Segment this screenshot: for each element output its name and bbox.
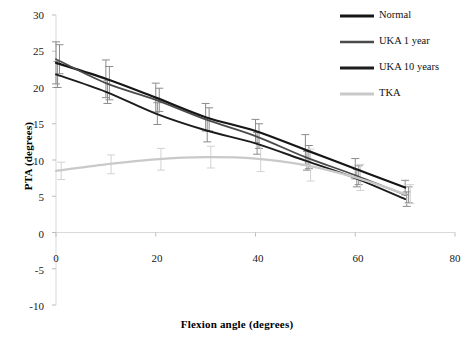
legend-label-normal: Normal	[379, 9, 411, 20]
data-series-layer	[56, 59, 405, 199]
chart-figure: 30 25 20 15 10 5 0 -5 -10 0 20 40 60 80 …	[0, 0, 474, 341]
x-tick-20: 20	[140, 252, 174, 264]
y-tick-25: 25	[10, 45, 44, 57]
x-tick-40: 40	[241, 252, 275, 264]
y-tick--5: -5	[10, 264, 44, 276]
legend-swatch-normal	[340, 9, 374, 20]
legend-item-normal[interactable]: Normal	[340, 9, 411, 20]
legend-label-uka-10-years: UKA 10 years	[379, 61, 439, 72]
legend-label-uka-1-year: UKA 1 year	[379, 35, 430, 46]
y-tick--10: -10	[10, 300, 44, 312]
legend-swatch-uka-10-years	[340, 61, 374, 72]
legend-label-tka: TKA	[379, 87, 401, 98]
legend-item-uka-1-year[interactable]: UKA 1 year	[340, 35, 430, 46]
series-line-tka	[56, 157, 405, 194]
x-tick-0: 0	[39, 252, 73, 264]
series-line-normal	[56, 63, 405, 188]
legend-item-tka[interactable]: TKA	[340, 87, 401, 98]
x-tick-60: 60	[341, 252, 375, 264]
x-tick-80: 80	[438, 252, 472, 264]
line-chart-plot	[0, 0, 474, 341]
legend-item-uka-10-years[interactable]: UKA 10 years	[340, 61, 439, 72]
error-bars-tka	[57, 146, 414, 204]
legend-swatch-tka	[340, 87, 374, 98]
x-axis-title: Flexion angle (degrees)	[0, 318, 474, 330]
legend-swatch-uka-1-year	[340, 35, 374, 46]
y-tick-30: 30	[10, 9, 44, 21]
y-axis-title: PTA (degrees)	[22, 76, 34, 236]
